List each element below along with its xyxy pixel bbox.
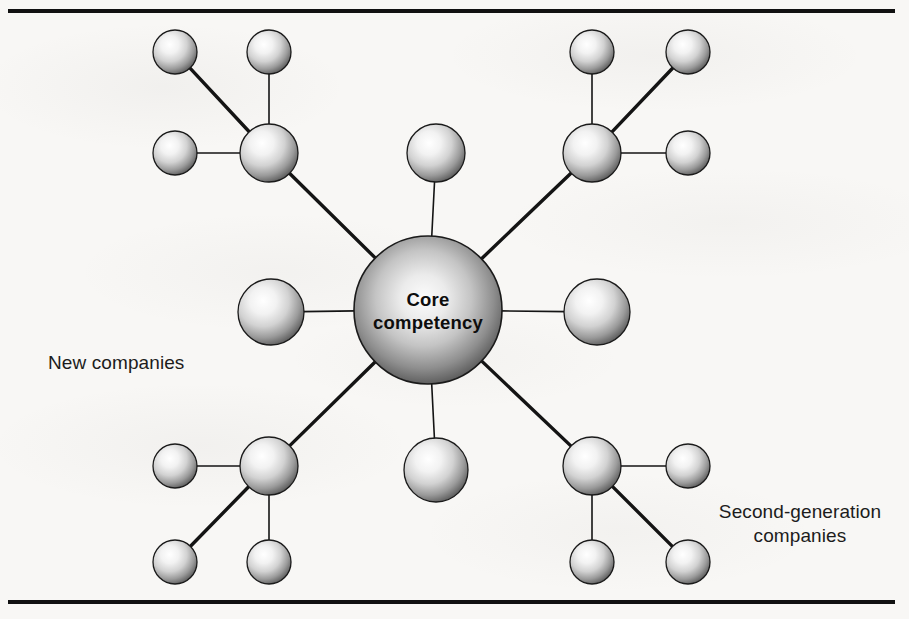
sphere-spoke-top (407, 124, 465, 182)
figure-container: Core competency New companies Second-gen… (0, 0, 909, 619)
sphere-hub-top-right (563, 124, 621, 182)
sphere-spoke-left (238, 279, 304, 345)
connector-core-to-hub-bottom-left (288, 360, 376, 447)
sphere-core (354, 236, 502, 384)
connector-core-to-spoke-top (432, 180, 435, 238)
connector-core-to-spoke-bottom (432, 382, 435, 440)
sphere-hub-bottom-right (563, 437, 621, 495)
connector-core-to-hub-bottom-right (480, 360, 572, 448)
label-second-generation-companies: Second-generation companies (707, 500, 893, 549)
connector-core-to-spoke-right (500, 311, 566, 312)
sphere-spoke-right (564, 279, 630, 345)
connector-core-to-spoke-left (302, 311, 356, 312)
sphere-hub-top-left (240, 124, 298, 182)
sphere-leaf-tl-b (247, 30, 291, 74)
core-label-line-2: competency (373, 312, 483, 333)
sphere-leaf-tl-a (153, 30, 197, 74)
connector-hub-bottom-right-to-leaf-br-c (611, 485, 674, 548)
sphere-leaf-tr-a (570, 30, 614, 74)
connector-hub-top-left-to-leaf-tl-a (189, 67, 251, 134)
connector-core-to-hub-top-left (288, 172, 377, 259)
sphere-leaf-br-a (666, 444, 710, 488)
core-label-line-1: Core (407, 289, 450, 310)
sphere-leaf-bl-b (153, 540, 197, 584)
sphere-leaf-tr-b (666, 30, 710, 74)
sphere-leaf-br-c (666, 540, 710, 584)
sphere-leaf-bl-a (153, 444, 197, 488)
connector-hub-bottom-left-to-leaf-bl-b (189, 485, 250, 547)
sphere-leaf-tr-c (666, 131, 710, 175)
sphere-leaf-tl-c (153, 131, 197, 175)
connector-hub-top-right-to-leaf-tr-b (611, 66, 675, 133)
sphere-leaf-br-b (570, 540, 614, 584)
label-new-companies: New companies (48, 351, 184, 375)
connector-core-to-hub-top-right (480, 172, 572, 261)
sphere-spoke-bottom (404, 438, 468, 502)
sphere-leaf-bl-c (247, 540, 291, 584)
sphere-hub-bottom-left (240, 437, 298, 495)
